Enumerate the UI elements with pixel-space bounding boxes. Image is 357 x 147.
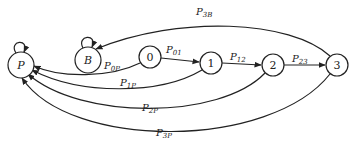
edge-0-to-1 [161,58,199,62]
node-3: 3 [326,54,348,76]
node-P-label: P [16,59,25,72]
label-p3B: P3B [195,6,212,19]
edge-P-self-loop [14,42,25,53]
node-0-label: 0 [147,51,154,64]
label-p01: P01 [165,44,182,57]
label-p0P: P0P [103,60,120,73]
node-B: B [75,47,101,73]
edge-3-to-B [96,26,330,56]
label-p23: P23 [291,53,308,66]
node-1: 1 [200,52,222,74]
edge-3-to-P [22,74,330,132]
node-3-label: 3 [334,59,341,72]
label-p2P: P2P [141,102,158,115]
state-diagram: P B 0 1 2 3 P01 P12 P23 P0P P1P P2P P3P … [0,0,357,147]
node-B-label: B [83,54,92,67]
node-0: 0 [139,46,161,68]
node-P: P [8,52,34,78]
label-p1P: P1P [119,77,136,90]
node-1-label: 1 [208,57,215,70]
node-2: 2 [262,54,284,76]
node-2-label: 2 [270,59,277,72]
label-p12: P12 [229,51,246,64]
edge-B-self-loop [82,37,93,48]
label-p3P: P3P [155,127,172,140]
